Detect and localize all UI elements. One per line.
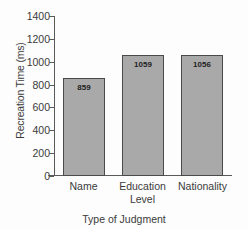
y-axis-tick-label: 1200 xyxy=(27,33,50,45)
y-axis-tick-label: 1000 xyxy=(27,56,50,68)
y-axis-tick-label: 200 xyxy=(32,147,50,159)
bar: 1059 xyxy=(122,55,164,176)
plot-area: 85910591056 xyxy=(54,16,232,176)
y-axis-tick-mark xyxy=(49,107,54,108)
bar-chart-figure: Recreation Time (ms) 1400120010008006004… xyxy=(0,0,248,229)
y-axis-tick-mark xyxy=(49,62,54,63)
bar-value-label: 859 xyxy=(64,83,104,92)
y-axis-tick-mark xyxy=(49,176,54,177)
bar: 1056 xyxy=(181,55,223,176)
y-axis-tick-label: 800 xyxy=(32,79,50,91)
x-axis-category-label: Name xyxy=(54,180,113,193)
bar-value-label: 1059 xyxy=(123,60,163,69)
y-axis-tick-mark xyxy=(49,85,54,86)
y-axis-tick-mark xyxy=(49,153,54,154)
bar-value-label: 1056 xyxy=(182,60,222,69)
y-axis-line xyxy=(54,16,55,176)
x-axis-title: Type of Judgment xyxy=(0,213,248,225)
bar: 859 xyxy=(63,78,105,176)
x-axis-category-label: Nationality xyxy=(173,180,232,193)
y-axis-tick-label: 600 xyxy=(32,101,50,113)
y-axis-tick-mark xyxy=(49,130,54,131)
x-axis-category-label: Education Level xyxy=(113,180,172,205)
y-axis-tick-label: 1400 xyxy=(27,10,50,22)
y-axis-tick-mark xyxy=(49,16,54,17)
y-axis-tick-mark xyxy=(49,39,54,40)
y-axis-tick-label: 400 xyxy=(32,124,50,136)
y-axis-tick-labels: 1400120010008006004002000 xyxy=(18,10,50,176)
